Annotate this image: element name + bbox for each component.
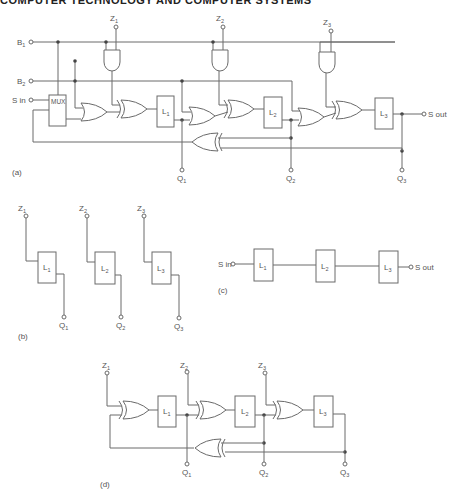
and-gate-2 [212,50,228,71]
xor-gate-2 [224,100,254,118]
or-gate-3 [298,108,324,126]
sin-label: S in [12,96,26,105]
q1-label: Q1 [177,174,186,184]
z2-label: Z2 [216,14,224,24]
or-gate-1 [81,103,107,121]
q3-label: Q3 [397,174,406,184]
b-z3-label: Z3 [137,204,145,214]
caption-d: (d) [100,480,110,489]
d-z2-label: Z2 [180,361,188,371]
panel-c: S in L1 L2 L3 S out (c) [218,249,434,295]
q2-label: Q2 [286,174,295,184]
feedback-xor-gate [192,133,222,151]
xor-gate-3 [332,101,362,119]
b-q3-label: Q3 [174,322,183,332]
and-gate-1 [104,50,120,71]
xor-gate-1 [117,100,147,118]
z3-label: Z3 [323,18,331,28]
z1-label: Z1 [110,14,118,24]
and-gate-3 [319,52,335,73]
panel-d: Z1 L1 Q1 Z2 L2 [100,361,349,489]
b2-terminal [29,79,33,83]
d-q2-label: Q2 [259,468,268,478]
sin-terminal [29,98,33,102]
d-z3-label: Z3 [258,361,266,371]
b2-label: B2 [17,77,25,87]
caption-a: (a) [12,168,22,177]
d-q1-label: Q1 [182,468,191,478]
panel-a: MUX Z1 [12,14,447,184]
d-q3-label: Q3 [340,468,349,478]
mux-label: MUX [51,98,66,105]
c-sin-label: S in [218,260,232,269]
caption-b: (b) [18,332,28,341]
b1-terminal [29,40,33,44]
circuit-figure: MUX Z1 [0,0,456,496]
b-q2-label: Q2 [116,321,125,331]
d-xor-gate-2 [196,401,226,419]
b-z2-label: Z2 [79,204,87,214]
d-z1-label: Z1 [102,361,110,371]
b-z1-label: Z1 [18,204,26,214]
d-xor-gate-1 [119,401,149,419]
b-q1-label: Q1 [59,321,68,331]
caption-c: (c) [218,286,228,295]
d-xor-gate-3 [273,401,303,419]
or-gate-2 [189,107,215,125]
sout-label: S out [428,110,447,119]
b1-label: B1 [17,38,25,48]
panel-b: Z1 L1 Q1 Z2 L2 Q2 Z3 L3 Q3 (b) [18,204,183,341]
d-feedback-xor-gate [195,439,225,457]
c-sout-label: S out [415,263,434,272]
